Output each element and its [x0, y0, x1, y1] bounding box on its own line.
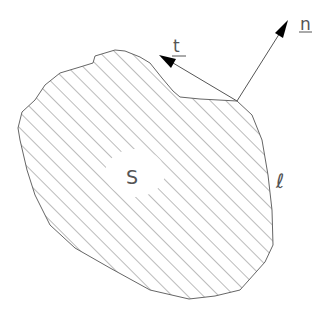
normal-arrowhead-icon	[275, 20, 288, 38]
diagram-canvas: S ℓ n t	[0, 0, 333, 316]
boundary-label: ℓ	[275, 169, 284, 193]
tangent-label: t	[173, 36, 180, 56]
region-label: S	[126, 166, 138, 188]
tangent-arrowhead-icon	[159, 55, 176, 68]
region-s	[0, 0, 333, 316]
normal-label: n	[300, 14, 311, 34]
normal-vector	[237, 20, 288, 101]
